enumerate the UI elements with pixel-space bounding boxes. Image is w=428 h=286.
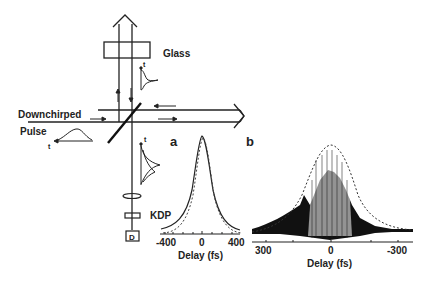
chart-a-fit: [163, 138, 242, 233]
glass-block: [104, 42, 150, 58]
beam-splitter: [108, 103, 141, 143]
chart-a-xtick: -400: [156, 237, 176, 248]
chart-a-xlabel: Delay (fs): [178, 250, 223, 261]
chart-b-xlabel: Delay (fs): [307, 258, 352, 269]
chart-a-measured: [161, 136, 240, 230]
downchirped-label: Downchirped: [18, 109, 81, 120]
chart-a: -400 0 400 Delay (fs): [156, 136, 245, 261]
chart-b: 300 0 -300 Delay (fs): [252, 145, 413, 269]
panel-b-label: b: [246, 134, 254, 149]
input-pulse-icon: [54, 129, 93, 143]
t-label-top: t: [143, 61, 146, 68]
chart-a-xtick: 0: [199, 237, 205, 248]
panel-a-label: a: [170, 134, 178, 149]
chart-a-xtick: 400: [228, 237, 245, 248]
pulse-shape-icon-top: [140, 67, 158, 90]
chart-b-xtick: -300: [387, 245, 407, 256]
pulse-label: Pulse: [20, 126, 47, 137]
figure-canvas: Glass t Downchirped Pulse t: [0, 0, 428, 286]
chart-b-xtick: 300: [255, 245, 272, 256]
detector-label: D: [129, 233, 135, 242]
glass-label: Glass: [163, 48, 191, 59]
chart-b-xtick: 0: [328, 245, 334, 256]
pulse-shape-icon-lower: [140, 143, 160, 185]
kdp-label: KDP: [150, 210, 171, 221]
t-label-input: t: [48, 143, 51, 150]
t-label-lower: t: [144, 136, 147, 143]
